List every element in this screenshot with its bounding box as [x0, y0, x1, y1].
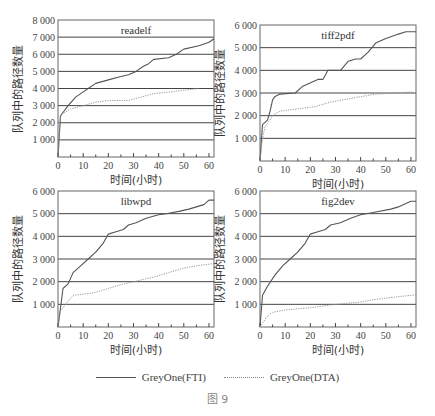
- chart-panel-fig2dev: 1 0002 0003 0004 0005 0006 0000102030405…: [213, 186, 416, 358]
- series-line-dta: [260, 92, 416, 161]
- y-tick-label: 2 000: [235, 276, 258, 287]
- series-line-dta: [58, 264, 214, 328]
- solid-line-swatch-icon: [96, 377, 136, 378]
- x-tick-label: 40: [356, 330, 366, 341]
- chart-panel-libwpd: 1 0002 0003 0004 0005 0006 0000102030405…: [11, 186, 214, 358]
- chart-title: fig2dev: [321, 195, 355, 207]
- x-tick-label: 10: [280, 330, 290, 341]
- y-tick-label: 3 000: [235, 88, 258, 99]
- legend-label-dta: GreyOne(DTA): [270, 371, 339, 383]
- chart-legend: GreyOne(FTI) GreyOne(DTA): [0, 368, 435, 386]
- x-tick-label: 20: [305, 164, 315, 175]
- y-tick-label: 1 000: [33, 134, 56, 145]
- x-axis-label: 时间(小时): [312, 178, 365, 191]
- x-axis-label: 时间(小时): [110, 344, 163, 357]
- x-tick-label: 10: [280, 164, 290, 175]
- y-tick-label: 6 000: [235, 20, 258, 31]
- y-tick-label: 2 000: [235, 110, 258, 121]
- y-tick-label: 6 000: [33, 186, 56, 197]
- y-tick-label: 8 000: [33, 15, 56, 26]
- x-tick-label: 10: [78, 330, 88, 341]
- x-tick-label: 20: [103, 160, 113, 171]
- x-tick-label: 0: [56, 160, 61, 171]
- x-tick-label: 0: [56, 330, 61, 341]
- chart-title: readelf: [121, 24, 152, 36]
- x-tick-label: 0: [258, 330, 263, 341]
- x-tick-label: 50: [381, 330, 391, 341]
- x-tick-label: 50: [381, 164, 391, 175]
- x-tick-label: 20: [103, 330, 113, 341]
- x-tick-label: 0: [258, 164, 263, 175]
- y-tick-label: 7 000: [33, 32, 56, 43]
- figure-canvas: 1 0002 0003 0004 0005 0006 0007 0008 000…: [0, 0, 435, 416]
- y-tick-label: 1 000: [235, 133, 258, 144]
- x-axis-label: 时间(小时): [312, 344, 365, 357]
- x-tick-label: 10: [78, 160, 88, 171]
- legend-label-fti: GreyOne(FTI): [142, 371, 206, 383]
- y-tick-label: 2 000: [33, 276, 56, 287]
- x-axis-label: 时间(小时): [110, 174, 163, 187]
- series-line-fti: [58, 200, 214, 327]
- x-tick-label: 30: [330, 164, 340, 175]
- figure-caption: 图 9: [0, 390, 435, 406]
- y-tick-label: 5 000: [33, 208, 56, 219]
- series-line-fti: [260, 201, 416, 327]
- legend-item-dta: GreyOne(DTA): [224, 371, 339, 383]
- y-tick-label: 5 000: [235, 208, 258, 219]
- y-tick-label: 5 000: [33, 66, 56, 77]
- legend-item-fti: GreyOne(FTI): [96, 371, 206, 383]
- series-line-fti: [260, 32, 416, 161]
- y-tick-label: 5 000: [235, 42, 258, 53]
- series-line-dta: [260, 295, 416, 327]
- chart-panel-tiff2pdf: 1 0002 0003 0004 0005 0006 0000102030405…: [213, 20, 416, 192]
- y-tick-label: 2 000: [33, 117, 56, 128]
- x-tick-label: 40: [356, 164, 366, 175]
- y-tick-label: 4 000: [33, 231, 56, 242]
- y-axis-label: 队列中的路径数量: [213, 49, 227, 137]
- x-tick-label: 60: [406, 330, 416, 341]
- x-tick-label: 30: [330, 330, 340, 341]
- series-line-fti: [58, 39, 214, 157]
- dotted-line-swatch-icon: [224, 377, 264, 378]
- y-axis-label: 队列中的路径数量: [11, 215, 25, 303]
- y-tick-label: 4 000: [235, 65, 258, 76]
- x-tick-label: 20: [305, 330, 315, 341]
- chart-title: libwpd: [121, 195, 152, 207]
- x-tick-label: 40: [154, 160, 164, 171]
- x-tick-label: 50: [179, 160, 189, 171]
- y-axis-label: 队列中的路径数量: [11, 45, 25, 133]
- x-tick-label: 30: [128, 160, 138, 171]
- x-tick-label: 60: [406, 164, 416, 175]
- y-tick-label: 4 000: [235, 231, 258, 242]
- y-axis-label: 队列中的路径数量: [213, 215, 227, 303]
- y-tick-label: 3 000: [33, 254, 56, 265]
- chart-title: tiff2pdf: [321, 29, 355, 41]
- x-tick-label: 60: [204, 160, 214, 171]
- chart-panel-readelf: 1 0002 0003 0004 0005 0006 0007 0008 000…: [11, 15, 214, 188]
- y-tick-label: 1 000: [33, 299, 56, 310]
- x-tick-label: 40: [154, 330, 164, 341]
- y-tick-label: 1 000: [235, 299, 258, 310]
- x-tick-label: 50: [179, 330, 189, 341]
- y-tick-label: 6 000: [235, 186, 258, 197]
- y-tick-label: 3 000: [235, 254, 258, 265]
- y-tick-label: 3 000: [33, 100, 56, 111]
- x-tick-label: 30: [128, 330, 138, 341]
- x-tick-label: 60: [204, 330, 214, 341]
- y-tick-label: 6 000: [33, 49, 56, 60]
- y-tick-label: 4 000: [33, 83, 56, 94]
